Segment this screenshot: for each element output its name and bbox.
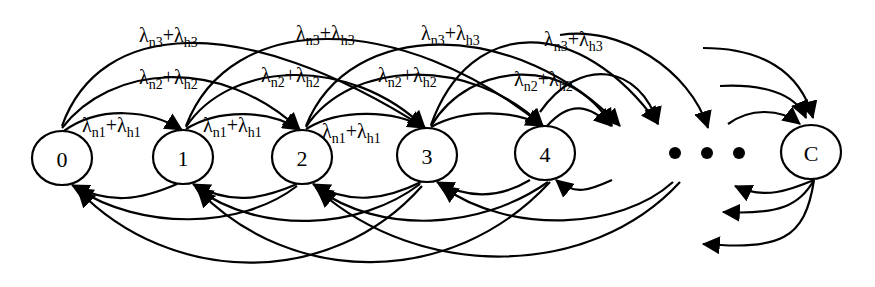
ellipsis-dot [701,147,713,159]
edge-C-to-ellipsis-1 [735,180,814,193]
rate-label-step2: λn2+λh2 [514,68,573,94]
state-label-2: 2 [297,146,308,171]
state-label-C: C [804,141,819,166]
edge-2-to-0 [76,186,297,219]
state-transition-diagram: λn3+λh3 λn3+λh3 λn3+λh3 λn3+λh3 λn2+λh2 … [0,0,875,287]
rate-labels: λn3+λh3 λn3+λh3 λn3+λh3 λn3+λh3 λn2+λh2 … [82,22,603,146]
rate-label-step3: λn3+λh3 [544,28,603,54]
ellipsis-dot [733,147,745,159]
state-label-4: 4 [540,142,551,167]
ellipsis-dots [669,147,745,159]
edge-3-to-4 [431,113,543,127]
rate-label-step1: λn1+λh1 [203,114,262,140]
backward-edges [72,180,814,263]
edge-ellipsis-to-4 [556,180,612,190]
ellipsis-dot [669,147,681,159]
rate-label-step3: λn3+λh3 [296,22,355,48]
rate-label-step2: λn2+λh2 [139,66,198,92]
state-label-1: 1 [178,146,189,171]
rate-label-step2: λn2+λh2 [378,64,437,90]
state-label-0: 0 [57,147,68,172]
state-node-0: 0 [32,131,92,185]
rate-label-step3: λn3+λh3 [139,24,198,50]
state-node-1: 1 [153,130,213,184]
state-node-2: 2 [272,130,332,184]
state-node-4: 4 [515,126,575,180]
state-label-3: 3 [422,144,433,169]
edge-ellipsis-to-C-1 [728,112,800,124]
state-node-3: 3 [397,128,457,182]
edge-ellipsis-to-C-3 [703,48,813,118]
edge-ellipsis-to-C-2 [720,86,806,118]
rate-label-step1: λn1+λh1 [322,120,381,146]
state-node-C: C [781,125,841,179]
rate-label-step1: λn1+λh1 [82,114,141,140]
